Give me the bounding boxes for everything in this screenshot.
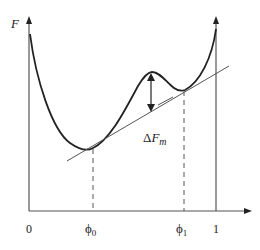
y-axis-label: F <box>10 16 20 31</box>
free-energy-curve <box>30 29 216 150</box>
delta-fm-double-arrow <box>147 73 155 112</box>
x-tick-phi1: ϕ1 <box>176 221 187 238</box>
delta-fm-label: ΔFm <box>143 130 167 147</box>
x-tick-phi0: ϕ0 <box>85 221 97 238</box>
x-tick-0: 0 <box>26 222 32 236</box>
free-energy-diagram: F ΔFm 0 ϕ0 ϕ1 1 <box>0 0 260 250</box>
x-tick-1: 1 <box>213 222 219 236</box>
